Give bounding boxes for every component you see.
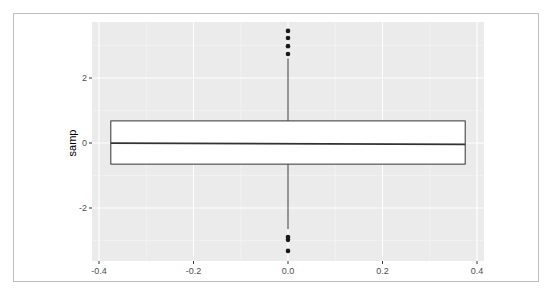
outlier-point (286, 44, 291, 49)
outlier-point (286, 238, 291, 243)
y-tick-label: 2 (82, 73, 87, 83)
outlier-point (286, 29, 291, 34)
y-axis-title: samp (66, 130, 78, 157)
x-tick-label: 0.0 (282, 266, 295, 276)
y-tick-label: -2 (79, 203, 87, 213)
x-tick-label: -0.2 (186, 266, 202, 276)
boxplot-chart: -0.4-0.20.00.20.4 -202 samp (0, 0, 551, 292)
x-axis: -0.4-0.20.00.20.4 (91, 261, 483, 276)
y-tick-label: 0 (82, 138, 87, 148)
x-tick-label: 0.4 (471, 266, 484, 276)
y-axis: -202 (79, 73, 92, 213)
x-tick-label: 0.2 (376, 266, 389, 276)
outlier-point (286, 249, 291, 254)
x-tick-label: -0.4 (91, 266, 107, 276)
outlier-point (286, 36, 291, 41)
outlier-point (286, 52, 291, 57)
